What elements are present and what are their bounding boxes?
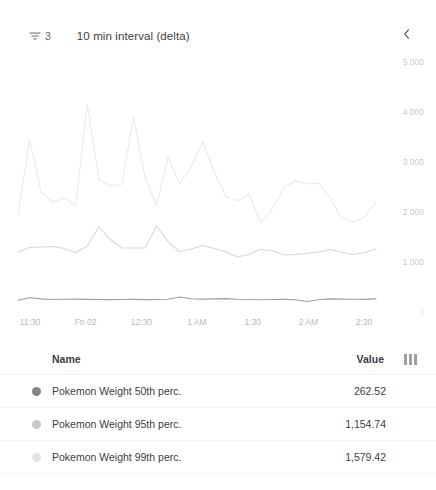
x-axis-tick-label: Fri 02 bbox=[75, 318, 97, 327]
y-axis-tick-label: 1 000 bbox=[403, 258, 424, 267]
y-axis-tick-label: 5 000 bbox=[403, 58, 424, 67]
series-name: Pokemon Weight 95th perc. bbox=[52, 418, 181, 430]
y-axis-tick-label: 0 bbox=[419, 308, 424, 317]
series-value: 1,579.42 bbox=[345, 451, 386, 463]
chart-plot-area[interactable] bbox=[0, 52, 436, 337]
series-color-dot bbox=[32, 420, 41, 429]
series-line bbox=[18, 226, 376, 257]
filter-count: 3 bbox=[45, 31, 51, 42]
y-axis-tick-label: 3 000 bbox=[403, 158, 424, 167]
column-header-name[interactable]: Name bbox=[52, 353, 81, 365]
series-legend-table: Name Value Pokemon Weight 50th perc.262.… bbox=[0, 344, 436, 474]
x-axis-tick-label: 1 AM bbox=[187, 318, 206, 327]
x-axis-tick-label: 11:30 bbox=[20, 318, 41, 327]
series-name: Pokemon Weight 50th perc. bbox=[52, 385, 181, 397]
series-color-dot bbox=[32, 387, 41, 396]
legend-row[interactable]: Pokemon Weight 95th perc.1,154.74 bbox=[0, 408, 436, 441]
legend-row[interactable]: Pokemon Weight 99th perc.1,579.42 bbox=[0, 441, 436, 474]
series-value: 262.52 bbox=[354, 385, 386, 397]
tune-icon bbox=[28, 29, 42, 43]
x-axis-tick-label: 1:30 bbox=[244, 318, 261, 327]
column-header-value[interactable]: Value bbox=[357, 353, 384, 365]
legend-row-list: Pokemon Weight 50th perc.262.52Pokemon W… bbox=[0, 375, 436, 474]
x-axis-tick-label: 12:30 bbox=[131, 318, 152, 327]
interval-label[interactable]: 10 min interval (delta) bbox=[77, 30, 190, 42]
x-axis-tick-label: 2:30 bbox=[356, 318, 373, 327]
series-value: 1,154.74 bbox=[345, 418, 386, 430]
chevron-left-icon bbox=[400, 27, 414, 45]
time-series-chart[interactable]: 01 0002 0003 0004 0005 000 bbox=[0, 52, 436, 337]
chart-header: 3 10 min interval (delta) bbox=[0, 22, 436, 50]
legend-row[interactable]: Pokemon Weight 50th perc.262.52 bbox=[0, 375, 436, 408]
series-line bbox=[18, 297, 376, 302]
x-axis-tick-label: 2 AM bbox=[299, 318, 318, 327]
y-axis-tick-label: 2 000 bbox=[403, 208, 424, 217]
series-line bbox=[18, 105, 376, 223]
series-color-dot bbox=[32, 453, 41, 462]
collapse-button[interactable] bbox=[396, 25, 418, 47]
y-axis-tick-label: 4 000 bbox=[403, 108, 424, 117]
x-axis-ticks: 11:30Fri 0212:301 AM1:302 AM2:30 bbox=[0, 318, 436, 332]
filter-chip[interactable]: 3 bbox=[28, 29, 51, 43]
view-columns-icon[interactable] bbox=[404, 352, 420, 366]
legend-header-row: Name Value bbox=[0, 344, 436, 375]
series-name: Pokemon Weight 99th perc. bbox=[52, 451, 181, 463]
